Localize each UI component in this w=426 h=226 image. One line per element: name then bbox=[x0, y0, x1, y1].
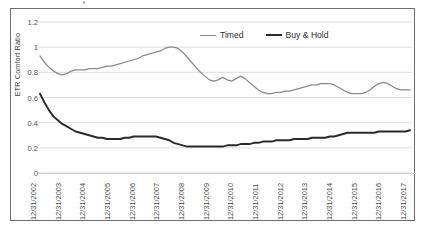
x-axis-tick-label: 12/31/2006 bbox=[128, 183, 137, 220]
x-axis-tick-label: 12/31/2004 bbox=[78, 183, 87, 220]
y-axis-tick-label: 0.6 bbox=[16, 93, 38, 102]
x-axis-tick-label: 12/31/2012 bbox=[276, 183, 285, 220]
legend-item-buy-and-hold[interactable]: Buy & Hold bbox=[266, 30, 329, 40]
x-axis-tick-label: 12/31/2009 bbox=[202, 183, 211, 220]
x-axis-tick-label: 12/31/2005 bbox=[103, 183, 112, 220]
x-axis-tick-label: 12/31/2013 bbox=[300, 183, 309, 220]
legend-label-buy-and-hold: Buy & Hold bbox=[286, 30, 329, 40]
y-axis-tick-label: 0.2 bbox=[16, 143, 38, 152]
x-axis-tick-label: 12/31/2015 bbox=[350, 183, 359, 220]
y-axis-tick-label: 1 bbox=[16, 43, 38, 52]
x-axis-tick-labels: 12/31/200212/31/200312/31/200412/31/2005… bbox=[38, 176, 416, 220]
x-axis-tick-label: 12/31/2003 bbox=[54, 183, 63, 220]
y-axis-tick-label: 0.4 bbox=[16, 118, 38, 127]
x-axis-tick-label: 12/31/2016 bbox=[374, 183, 383, 220]
x-axis-tick-label: 12/31/2011 bbox=[251, 184, 260, 220]
x-axis-tick-label: 12/31/2007 bbox=[152, 183, 161, 220]
x-axis-tick-label: 12/31/2017 bbox=[399, 183, 408, 220]
legend-swatch-timed-icon bbox=[200, 35, 216, 36]
legend-swatch-buy-and-hold-icon bbox=[266, 34, 282, 36]
page-artifact-speck bbox=[83, 1, 85, 4]
x-axis-tick-label: 12/31/2010 bbox=[226, 183, 235, 220]
x-axis-tick-label: 12/31/2014 bbox=[325, 183, 334, 220]
x-axis-tick-label: 12/31/2002 bbox=[29, 183, 38, 220]
series-line-timed bbox=[40, 47, 410, 94]
y-axis-tick-label: 1.2 bbox=[16, 18, 38, 27]
x-axis-tick-label: 12/31/2008 bbox=[177, 183, 186, 220]
chart-legend: Timed Buy & Hold bbox=[196, 26, 333, 44]
chart-container: ETR Comfort Ratio 00.20.40.60.811.2 Time… bbox=[0, 0, 426, 226]
legend-item-timed[interactable]: Timed bbox=[200, 30, 244, 40]
y-axis-tick-label: 0 bbox=[16, 169, 38, 178]
x-axis-baseline bbox=[38, 173, 416, 174]
y-axis-tick-label: 0.8 bbox=[16, 68, 38, 77]
legend-label-timed: Timed bbox=[220, 30, 244, 40]
series-line-buy-hold bbox=[40, 94, 410, 147]
